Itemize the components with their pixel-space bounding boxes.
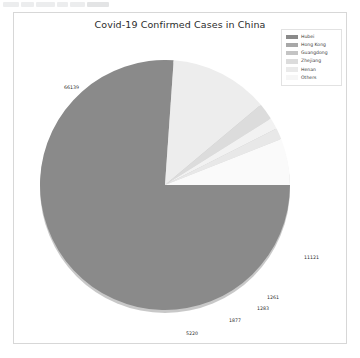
- legend-swatch-hong-kong: [286, 43, 298, 48]
- chart-legend: Hubei Hong Kong Guangdong Zhejiang Henan…: [281, 29, 342, 86]
- legend-label-hubei: Hubei: [301, 34, 314, 40]
- legend-label-guangdong: Guangdong: [301, 50, 328, 56]
- data-label-guangdong: 1261: [267, 295, 279, 300]
- legend-swatch-guangdong: [286, 51, 298, 56]
- legend-label-henan: Henan: [301, 67, 316, 73]
- pie-chart: [40, 60, 290, 310]
- pie-slices: [40, 60, 290, 310]
- legend-item-henan[interactable]: Henan: [286, 66, 338, 74]
- legend-label-others: Others: [301, 75, 316, 81]
- legend-item-guangdong[interactable]: Guangdong: [286, 49, 338, 57]
- legend-item-zhejiang[interactable]: Zhejiang: [286, 58, 338, 66]
- legend-label-zhejiang: Zhejiang: [301, 58, 321, 64]
- data-label-others: 5220: [186, 331, 198, 336]
- legend-item-others[interactable]: Others: [286, 74, 338, 82]
- data-label-zhejiang: 1283: [257, 306, 269, 311]
- chart-frame: Covid-19 Confirmed Cases in China Hubei …: [13, 12, 347, 344]
- data-label-hong-kong: 11121: [304, 255, 319, 260]
- legend-label-hong-kong: Hong Kong: [301, 42, 326, 48]
- legend-swatch-hubei: [286, 35, 298, 40]
- legend-item-hubei[interactable]: Hubei: [286, 33, 338, 41]
- data-label-henan: 1877: [229, 318, 241, 323]
- window-chrome-artifact: [3, 1, 119, 8]
- legend-item-hong-kong[interactable]: Hong Kong: [286, 41, 338, 49]
- data-label-hubei: 66139: [64, 85, 79, 90]
